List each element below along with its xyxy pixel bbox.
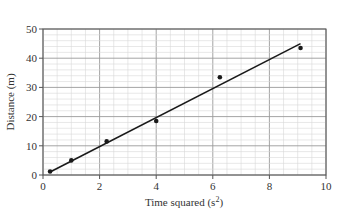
y-tick-label: 10	[26, 140, 38, 152]
chart: 024681001020304050 Time squared (s2) Dis…	[0, 0, 343, 221]
x-tick-label: 10	[321, 180, 333, 192]
x-axis-label: Time squared (s2)	[145, 195, 223, 209]
y-tick-label: 0	[32, 169, 38, 181]
tick-labels: 024681001020304050	[26, 23, 332, 192]
y-tick-label: 30	[26, 81, 38, 93]
data-point	[104, 139, 109, 144]
fit-line-group	[50, 44, 300, 172]
data-point	[48, 169, 53, 174]
data-point	[298, 46, 303, 51]
x-tick-label: 4	[153, 180, 159, 192]
data-points	[48, 46, 303, 174]
data-point	[218, 75, 223, 80]
x-tick-label: 6	[210, 180, 216, 192]
y-tick-label: 20	[26, 111, 38, 123]
x-tick-label: 0	[40, 180, 46, 192]
data-point	[69, 158, 74, 163]
y-axis-label: Distance (m)	[4, 73, 17, 130]
data-point	[154, 119, 159, 124]
x-tick-label: 8	[267, 180, 273, 192]
x-tick-label: 2	[97, 180, 103, 192]
y-tick-label: 40	[26, 52, 38, 64]
fit-line	[50, 44, 300, 172]
y-tick-label: 50	[26, 23, 38, 35]
